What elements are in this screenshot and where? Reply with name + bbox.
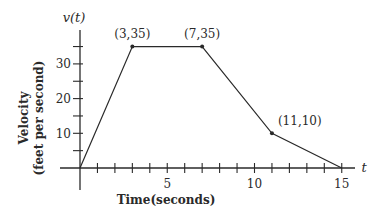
y-axis-title-line1: Velocity xyxy=(17,91,31,146)
x-axis-name: t xyxy=(361,160,367,175)
velocity-line xyxy=(80,47,342,168)
data-point-marker xyxy=(270,131,274,135)
data-point-label: (3,35) xyxy=(114,27,150,41)
y-axis-title-line2: (feet per second) xyxy=(32,61,46,176)
y-axis-name: v(t) xyxy=(63,10,86,25)
data-series xyxy=(80,45,342,168)
x-tick-label: 10 xyxy=(247,177,262,191)
x-tick-label: 5 xyxy=(163,177,171,191)
chart-labels: (3,35)(7,35)(11,10)v(t)tTime(seconds)Vel… xyxy=(17,10,367,207)
x-tick-label: 15 xyxy=(334,177,349,191)
y-tick-label: 20 xyxy=(56,92,71,106)
y-axis-title: Velocity(feet per second) xyxy=(17,61,46,176)
data-point-label: (7,35) xyxy=(184,27,220,41)
data-point-marker xyxy=(200,45,204,49)
chart-canvas: 51015102030 (3,35)(7,35)(11,10)v(t)tTime… xyxy=(0,0,380,218)
velocity-time-chart: 51015102030 (3,35)(7,35)(11,10)v(t)tTime… xyxy=(0,0,380,218)
x-axis-title: Time(seconds) xyxy=(117,193,216,207)
data-point-label: (11,10) xyxy=(278,114,322,128)
data-point-marker xyxy=(130,45,134,49)
y-tick-label: 10 xyxy=(56,127,71,141)
y-tick-label: 30 xyxy=(56,57,71,71)
